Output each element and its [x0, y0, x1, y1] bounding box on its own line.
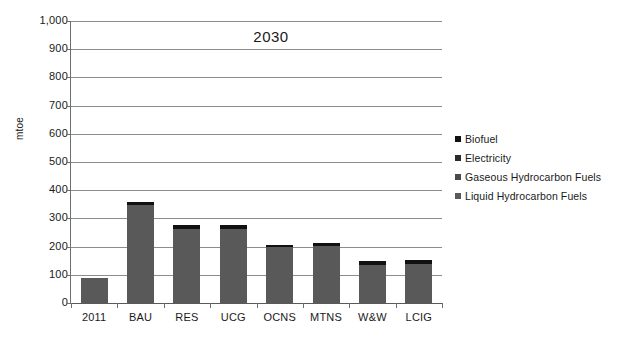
x-axis-label: OCNS [257, 311, 303, 323]
chart-container: mtoe 1,0009008007006005004003002001000 2… [0, 0, 639, 340]
bar-segment [220, 225, 247, 229]
bar-segment [405, 260, 432, 263]
x-axis: 2011BAURESUCGOCNSMTNSW&WLCIG [71, 303, 442, 333]
stacked-bar[interactable] [266, 245, 293, 303]
x-axis-tick-mark [303, 303, 304, 308]
bar-segment [127, 205, 154, 303]
bar-segment [173, 225, 200, 229]
bar-segment [81, 278, 108, 303]
bar-segment [173, 229, 200, 303]
chart-title: 2030 [216, 28, 326, 45]
y-axis-label: 900 [6, 43, 68, 54]
legend-swatch-icon [455, 155, 461, 161]
y-axis-label: 600 [6, 128, 68, 139]
x-axis-label: LCIG [396, 311, 442, 323]
x-axis-tick-mark [396, 303, 397, 308]
y-axis-label: 500 [6, 156, 68, 167]
x-axis-label: 2011 [71, 311, 117, 323]
stacked-bar[interactable] [359, 261, 386, 303]
stacked-bar[interactable] [127, 202, 154, 303]
chart-legend: BiofuelElectricityGaseous Hydrocarbon Fu… [455, 132, 635, 208]
plot-area [71, 21, 442, 303]
bar-segment [127, 202, 154, 205]
bar-column[interactable] [81, 21, 108, 303]
x-axis-label: BAU [117, 311, 163, 323]
bar-column[interactable] [127, 21, 154, 303]
y-axis-label: 400 [6, 184, 68, 195]
y-axis-label: 300 [6, 212, 68, 223]
bar-column[interactable] [359, 21, 386, 303]
bar-segment [313, 243, 340, 246]
legend-label: Electricity [465, 151, 511, 165]
bar-column[interactable] [220, 21, 247, 303]
bar-segment [266, 245, 293, 247]
stacked-bar[interactable] [81, 278, 108, 303]
x-axis-tick-mark [117, 303, 118, 308]
legend-item[interactable]: Biofuel [455, 132, 635, 146]
y-axis-label: 0 [6, 297, 68, 308]
bar-segment [405, 264, 432, 303]
x-axis-tick-mark [164, 303, 165, 308]
x-axis-tick-mark [442, 303, 443, 308]
legend-item[interactable]: Electricity [455, 151, 635, 165]
x-axis-tick-mark [257, 303, 258, 308]
legend-item[interactable]: Liquid Hydrocarbon Fuels [455, 189, 635, 203]
stacked-bar[interactable] [173, 225, 200, 303]
bar-column[interactable] [266, 21, 293, 303]
y-axis-label: 800 [6, 71, 68, 82]
legend-label: Biofuel [465, 132, 498, 146]
bar-segment [266, 247, 293, 303]
bar-segment [359, 265, 386, 303]
y-axis-ticks: 1,0009008007006005004003002001000 [0, 0, 68, 340]
y-axis-label: 200 [6, 241, 68, 252]
legend-swatch-icon [455, 136, 461, 142]
x-axis-tick-mark [210, 303, 211, 308]
y-axis-label: 1,000 [6, 15, 68, 26]
legend-item[interactable]: Gaseous Hydrocarbon Fuels [455, 170, 635, 184]
x-axis-label: MTNS [303, 311, 349, 323]
bar-segment [359, 261, 386, 264]
x-axis-label: UCG [210, 311, 256, 323]
stacked-bar[interactable] [220, 225, 247, 303]
legend-swatch-icon [455, 193, 461, 199]
legend-label: Liquid Hydrocarbon Fuels [465, 189, 587, 203]
legend-swatch-icon [455, 174, 461, 180]
x-axis-label: W&W [349, 311, 395, 323]
legend-label: Gaseous Hydrocarbon Fuels [465, 170, 601, 184]
stacked-bar[interactable] [405, 260, 432, 303]
x-axis-tick-mark [349, 303, 350, 308]
bar-segment [220, 229, 247, 303]
bar-group [71, 21, 442, 303]
y-axis-label: 100 [6, 269, 68, 280]
bar-column[interactable] [313, 21, 340, 303]
x-axis-label: RES [164, 311, 210, 323]
x-axis-tick-mark [71, 303, 72, 308]
bar-column[interactable] [405, 21, 432, 303]
bar-segment [313, 246, 340, 303]
y-axis-label: 700 [6, 100, 68, 111]
bar-column[interactable] [173, 21, 200, 303]
stacked-bar[interactable] [313, 243, 340, 303]
